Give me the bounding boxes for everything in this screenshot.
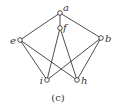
edge-b-h <box>77 38 101 80</box>
node-e <box>18 38 23 43</box>
node-i <box>45 78 50 83</box>
node-label-i: i <box>40 75 43 86</box>
node-f <box>58 26 63 31</box>
edge-b-i <box>47 38 101 80</box>
edge-f-h <box>60 28 77 80</box>
edge-e-i <box>20 40 47 80</box>
node-label-b: b <box>105 33 111 44</box>
node-label-f: f <box>62 22 69 33</box>
node-label-e: e <box>10 35 16 46</box>
node-a <box>58 11 63 16</box>
node-label-a: a <box>63 2 69 13</box>
node-label-h: h <box>81 75 87 86</box>
edges <box>20 13 101 80</box>
edge-a-e <box>20 13 60 40</box>
node-h <box>75 78 80 83</box>
figure-caption: (c) <box>51 92 65 103</box>
edge-f-i <box>47 28 60 80</box>
node-b <box>99 36 104 41</box>
graph-diagram: afebih (c) <box>0 0 116 107</box>
